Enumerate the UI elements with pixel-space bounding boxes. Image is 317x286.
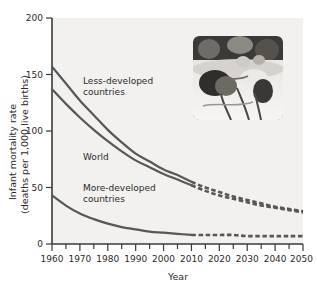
neonatal-infant-photo-art [193,36,283,120]
x-tick-label-2020: 2020 [208,254,231,264]
x-axis-tick-labels: 1960 1970 1980 1990 2000 2010 2020 2030 … [41,254,314,264]
y-tick-label-0: 0 [37,239,43,249]
y-tick-label-100: 100 [26,126,43,136]
x-tick-label-2010: 2010 [180,254,203,264]
label-less-developed-line2: countries [83,87,125,97]
x-tick-label-1970: 1970 [68,254,91,264]
label-world: World [83,152,109,162]
neonatal-infant-photo [193,36,283,120]
x-tick-label-2050: 2050 [290,254,313,264]
y-axis-title-line1: Infant mortality rate [7,104,18,200]
y-axis-title: Infant mortality rate (deaths per 1,000 … [7,75,30,214]
y-tick-label-200: 200 [26,13,43,23]
x-tick-label-1990: 1990 [124,254,147,264]
y-tick-label-50: 50 [32,183,44,193]
label-more-developed-line2: countries [83,194,125,204]
x-axis-title: Year [167,271,188,282]
y-tick-label-150: 150 [26,70,43,80]
x-tick-label-2000: 2000 [152,254,175,264]
x-tick-label-2030: 2030 [236,254,259,264]
y-axis-title-line2: (deaths per 1,000 live births) [19,75,30,214]
x-tick-label-1960: 1960 [41,254,64,264]
x-tick-label-2040: 2040 [264,254,287,264]
label-more-developed-line1: More-developed [83,183,156,193]
infant-mortality-figure: Infant mortality rate (deaths per 1,000 … [0,0,317,286]
label-less-developed-line1: Less-developed [83,76,153,86]
x-tick-label-1980: 1980 [96,254,119,264]
